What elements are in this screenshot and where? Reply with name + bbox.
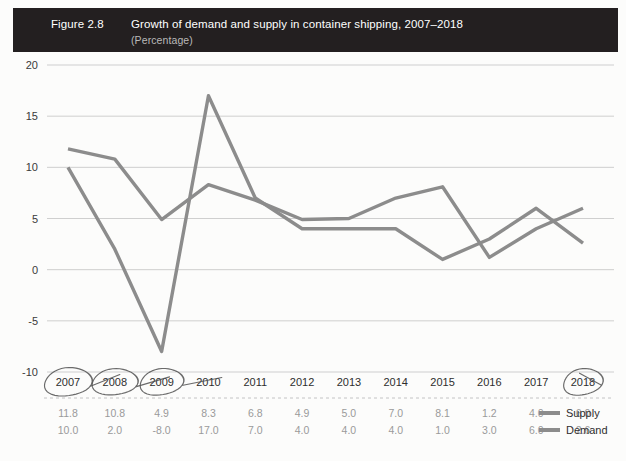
- x-axis-label-2012: 2012: [290, 376, 314, 388]
- x-axis-label-2011: 2011: [243, 376, 267, 388]
- chart-plot-area: 20151050-5-10 20072008200920102011201220…: [0, 0, 626, 461]
- y-axis-label: 10: [26, 161, 38, 173]
- table-cell-demand-2016: 3.0: [482, 424, 497, 436]
- table-cell-supply-2011: 6.8: [248, 407, 263, 419]
- table-cell-supply-2013: 5.0: [342, 407, 357, 419]
- table-cell-demand-2012: 4.0: [295, 424, 310, 436]
- data-value-table: 11.810.84.98.36.84.95.07.08.11.24.06.010…: [58, 407, 591, 436]
- series-line-supply: [68, 149, 583, 257]
- table-cell-demand-2010: 17.0: [198, 424, 219, 436]
- x-axis-label-2008: 2008: [103, 376, 127, 388]
- x-axis-label-2018: 2018: [571, 376, 595, 388]
- table-cell-demand-2014: 4.0: [388, 424, 403, 436]
- table-cell-supply-2014: 7.0: [388, 407, 403, 419]
- table-cell-supply-2016: 1.2: [482, 407, 497, 419]
- x-axis-label-2016: 2016: [477, 376, 501, 388]
- y-axis-label: -5: [28, 315, 38, 327]
- y-axis-label: -10: [22, 366, 38, 378]
- x-axis-label-2007: 2007: [56, 376, 80, 388]
- table-cell-supply-2015: 8.1: [435, 407, 450, 419]
- table-cell-demand-2007: 10.0: [58, 424, 79, 436]
- x-axis-label-2015: 2015: [430, 376, 454, 388]
- legend-label-supply: Supply: [566, 407, 600, 419]
- table-cell-demand-2008: 2.0: [108, 424, 123, 436]
- table-cell-supply-2012: 4.9: [295, 407, 310, 419]
- legend-label-demand: Demand: [566, 424, 608, 436]
- x-axis-label-2013: 2013: [337, 376, 361, 388]
- table-cell-supply-2010: 8.3: [201, 407, 216, 419]
- x-axis-label-2017: 2017: [524, 376, 548, 388]
- table-cell-demand-2011: 7.0: [248, 424, 263, 436]
- x-axis-label-2014: 2014: [383, 376, 407, 388]
- table-cell-supply-2009: 4.9: [154, 407, 169, 419]
- table-cell-supply-2007: 11.8: [58, 407, 78, 419]
- y-axis-label: 0: [32, 264, 38, 276]
- table-cell-supply-2008: 10.8: [105, 407, 126, 419]
- y-axis-label: 5: [32, 213, 38, 225]
- table-cell-demand-2015: 1.0: [435, 424, 450, 436]
- series-line-demand: [68, 96, 583, 352]
- series-lines-group: [68, 96, 583, 352]
- y-axis-label: 15: [26, 110, 38, 122]
- line-chart-svg: 20151050-5-10 20072008200920102011201220…: [0, 0, 626, 461]
- table-cell-demand-2013: 4.0: [342, 424, 357, 436]
- y-axis-tick-labels: 20151050-5-10: [22, 59, 38, 378]
- chart-legend: SupplyDemand: [539, 407, 608, 436]
- y-axis-label: 20: [26, 59, 38, 71]
- table-cell-demand-2009: -8.0: [153, 424, 171, 436]
